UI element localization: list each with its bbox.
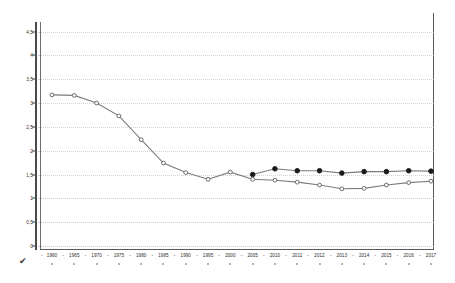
data-point-marker bbox=[184, 171, 188, 175]
x-axis-tick-mark bbox=[319, 263, 320, 265]
x-axis-tick-label: 1965 bbox=[69, 253, 79, 258]
x-axis-separator-dash: - bbox=[241, 253, 243, 258]
x-axis-separator-dash: - bbox=[196, 253, 198, 258]
data-point-marker bbox=[295, 168, 300, 173]
gridline bbox=[38, 246, 434, 247]
x-axis-separator-dash: - bbox=[129, 253, 131, 258]
x-axis-tick-mark bbox=[208, 263, 209, 265]
series-line-series-open-markers bbox=[52, 95, 431, 189]
x-axis-separator-dash: - bbox=[152, 253, 154, 258]
x-axis-separator-dash: - bbox=[107, 253, 109, 258]
x-axis-tick-label: 1995 bbox=[203, 253, 213, 258]
x-axis-tick-label: 2012 bbox=[314, 253, 324, 258]
x-axis-separator-dash: - bbox=[174, 253, 176, 258]
x-axis-tick-label: 1990 bbox=[181, 253, 191, 258]
chart-screenshot: 00,511,522,533,544,5 1960-1965-1970-1975… bbox=[0, 0, 455, 283]
data-point-marker bbox=[162, 161, 166, 165]
x-axis-separator-dash: - bbox=[62, 253, 64, 258]
y-axis-tick-mark bbox=[32, 174, 35, 175]
data-point-marker bbox=[251, 177, 255, 181]
data-point-marker bbox=[250, 172, 255, 177]
x-axis-tick-label: 1985 bbox=[158, 253, 168, 258]
x-axis-tick-mark bbox=[185, 263, 186, 265]
x-axis-tick-mark bbox=[386, 263, 387, 265]
x-axis-tick-label: 2016 bbox=[403, 253, 413, 258]
x-axis-separator-dash: - bbox=[85, 253, 87, 258]
x-axis-tick-label: 2015 bbox=[381, 253, 391, 258]
x-axis-separator-dash: - bbox=[218, 253, 220, 258]
x-axis-tick-label: 1980 bbox=[136, 253, 146, 258]
data-point-marker bbox=[117, 114, 121, 118]
x-axis-tick-mark bbox=[163, 263, 164, 265]
data-point-marker bbox=[429, 179, 433, 183]
y-axis-tick-mark bbox=[32, 246, 35, 247]
x-axis-tick-label: 1960 bbox=[47, 253, 57, 258]
x-axis-separator-dash: - bbox=[374, 253, 376, 258]
x-axis-tick-mark bbox=[52, 263, 53, 265]
data-point-marker bbox=[228, 170, 232, 174]
data-point-marker bbox=[273, 166, 278, 171]
data-point-marker bbox=[429, 169, 434, 174]
x-axis-tick-label: 2005 bbox=[247, 253, 257, 258]
x-axis-separator-dash: - bbox=[397, 253, 399, 258]
data-point-marker bbox=[50, 93, 54, 97]
corner-marker bbox=[430, 9, 435, 14]
x-axis-line bbox=[40, 249, 434, 250]
x-axis-tick-label: 2014 bbox=[359, 253, 369, 258]
y-axis-tick-mark bbox=[32, 79, 35, 80]
y-axis-tick-mark bbox=[32, 126, 35, 127]
y-axis-tick-mark bbox=[32, 31, 35, 32]
data-point-marker bbox=[95, 101, 99, 105]
x-axis-tick-label: 1975 bbox=[114, 253, 124, 258]
y-axis-tick-mark bbox=[32, 222, 35, 223]
data-point-marker bbox=[362, 169, 367, 174]
data-point-marker bbox=[384, 169, 389, 174]
y-axis-tick-mark bbox=[32, 198, 35, 199]
plot-area bbox=[38, 22, 434, 246]
y-axis-tick-mark bbox=[32, 150, 35, 151]
x-axis-tick-mark bbox=[74, 263, 75, 265]
x-axis-tick-mark bbox=[141, 263, 142, 265]
data-point-marker bbox=[362, 186, 366, 190]
data-point-marker bbox=[406, 168, 411, 173]
x-axis-separator-dash: - bbox=[263, 253, 265, 258]
y-axis-tick-mark bbox=[32, 55, 35, 56]
x-axis-separator-dash: - bbox=[419, 253, 421, 258]
y-axis-line-outer bbox=[35, 22, 37, 250]
data-point-marker bbox=[295, 180, 299, 184]
x-axis-tick-label: 2000 bbox=[225, 253, 235, 258]
x-axis-tick-label: 1970 bbox=[91, 253, 101, 258]
x-axis-tick-mark bbox=[252, 263, 253, 265]
x-axis-tick-label: 2010 bbox=[270, 253, 280, 258]
x-axis-separator-dash: - bbox=[308, 253, 310, 258]
x-axis-separator-dash: - bbox=[41, 253, 43, 258]
data-point-marker bbox=[317, 168, 322, 173]
data-point-marker bbox=[206, 177, 210, 181]
x-axis-tick-mark bbox=[274, 263, 275, 265]
x-axis-tick-label: 2011 bbox=[292, 253, 302, 258]
x-axis-tick-label: 2013 bbox=[337, 253, 347, 258]
x-axis-separator-dash: - bbox=[285, 253, 287, 258]
x-axis-tick-mark bbox=[230, 263, 231, 265]
x-axis-separator-dash: - bbox=[352, 253, 354, 258]
data-point-marker bbox=[273, 178, 277, 182]
x-axis-tick-mark bbox=[96, 263, 97, 265]
data-point-marker bbox=[385, 183, 389, 187]
x-axis-tick-mark bbox=[297, 263, 298, 265]
data-point-marker bbox=[139, 138, 143, 142]
series-group bbox=[38, 22, 434, 246]
y-axis-tick-mark bbox=[32, 103, 35, 104]
x-axis-tick-mark bbox=[364, 263, 365, 265]
check-icon[interactable]: ✔ bbox=[19, 257, 30, 266]
x-axis-tick-mark bbox=[118, 263, 119, 265]
data-point-marker bbox=[407, 181, 411, 185]
x-axis-tick-mark bbox=[408, 263, 409, 265]
data-point-marker bbox=[72, 94, 76, 98]
data-point-marker bbox=[340, 171, 345, 176]
data-point-marker bbox=[318, 183, 322, 187]
x-axis-tick-mark bbox=[341, 263, 342, 265]
x-axis-separator-dash: - bbox=[330, 253, 332, 258]
data-point-marker bbox=[340, 187, 344, 191]
x-axis-tick-mark bbox=[431, 263, 432, 265]
x-axis-tick-label: 2017 bbox=[426, 253, 436, 258]
